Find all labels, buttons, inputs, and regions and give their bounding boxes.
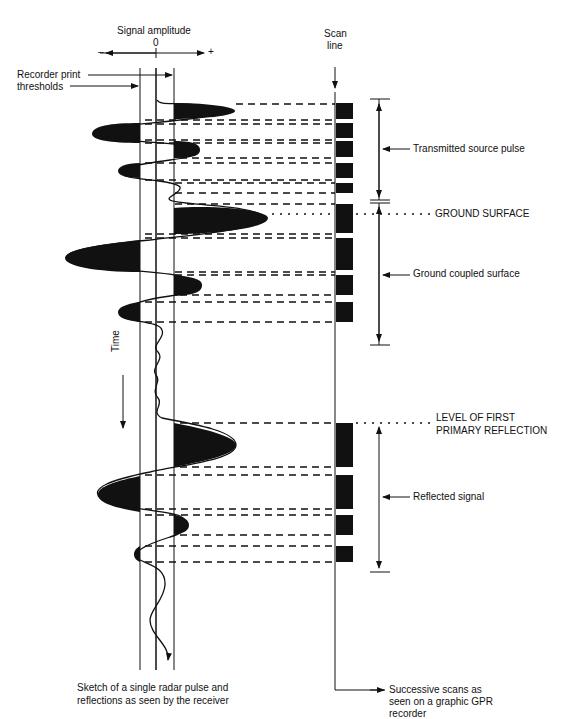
level-first-reflection-label-2: PRIMARY REFLECTION: [436, 425, 547, 437]
zero-label: 0: [153, 37, 159, 49]
sketch-caption-2: reflections as seen by the receiver: [77, 695, 229, 707]
sketch-caption-1: Sketch of a single radar pulse and: [77, 682, 228, 694]
scan-line-label-1: Scan: [324, 28, 347, 40]
scan-bars: [336, 103, 353, 562]
transmitted-source-pulse-label: Transmitted source pulse: [413, 143, 525, 155]
scan-line: [335, 92, 385, 690]
minus-label: –: [98, 46, 104, 58]
waveform-trace: [67, 100, 265, 660]
plus-label: +: [208, 46, 214, 58]
diagram-graphics: [0, 0, 569, 719]
level-first-reflection-label-1: LEVEL OF FIRST: [436, 412, 515, 424]
successive-scans-caption-1: Successive scans as: [389, 684, 482, 696]
time-label: Time: [110, 330, 122, 352]
reflected-signal-label: Reflected signal: [413, 491, 484, 503]
brackets: [370, 99, 410, 572]
signal-amplitude-label: Signal amplitude: [117, 25, 191, 37]
recorder-print-label-2: thresholds: [17, 81, 63, 93]
waveform-lobes: [65, 103, 268, 562]
ground-coupled-surface-label: Ground coupled surface: [413, 268, 520, 280]
ground-surface-label: GROUND SURFACE: [435, 208, 529, 220]
successive-scans-caption-3: recorder: [389, 708, 426, 719]
recorder-print-label-1: Recorder print: [17, 69, 80, 81]
gpr-diagram: Signal amplitude 0 – + Recorder print th…: [0, 0, 569, 719]
scan-line-label-2: line: [327, 40, 343, 52]
successive-scans-caption-2: seen on a graphic GPR: [389, 696, 493, 708]
